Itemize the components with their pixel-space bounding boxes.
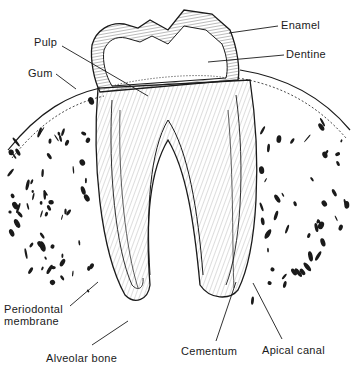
label-periodontal-line1: Periodontal [4,303,63,315]
leader-line-apical-canal [253,283,282,339]
label-alveolar-bone: Alveolar bone [46,352,117,364]
label-cementum: Cementum [181,345,237,357]
tooth-diagram: Pulp Gum Enamel Dentine Periodontal memb… [0,0,356,376]
label-periodontal-membrane: Periodontal membrane [4,303,63,327]
leader-line-enamel [229,26,278,33]
leader-line-alveolar-bone [92,321,128,345]
label-enamel: Enamel [281,19,320,31]
label-pulp: Pulp [34,36,57,48]
tooth-crown [91,10,238,92]
leader-line-periodontal-membrane [70,282,98,306]
label-gum: Gum [28,67,53,79]
label-dentine: Dentine [286,48,326,60]
label-apical-canal: Apical canal [262,344,325,356]
tooth-roots [96,80,257,300]
leader-line-gum [56,74,76,89]
label-periodontal-line2: membrane [4,315,59,327]
